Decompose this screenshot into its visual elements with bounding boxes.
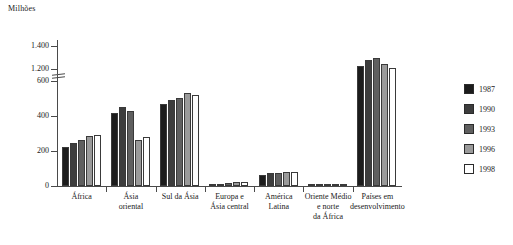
legend-label: 1993 (479, 125, 495, 134)
bar-group (156, 40, 205, 186)
legend-swatch-icon (464, 164, 474, 174)
bar-group (205, 40, 254, 186)
y-axis-unit-label: Milhões (8, 4, 36, 13)
bar[interactable] (78, 140, 85, 186)
y-tick-label: 600 (9, 76, 49, 85)
bar[interactable] (283, 172, 290, 186)
bars (62, 40, 102, 186)
bar[interactable] (357, 66, 364, 186)
y-tick-label: 1.200 (9, 64, 49, 73)
legend-swatch-icon (464, 124, 474, 134)
bar[interactable] (111, 113, 118, 187)
bars (160, 40, 200, 186)
bar[interactable] (86, 136, 93, 186)
bar[interactable] (340, 184, 347, 186)
bar[interactable] (217, 184, 224, 186)
legend-swatch-icon (464, 84, 474, 94)
bar[interactable] (373, 58, 380, 187)
legend-item[interactable]: 1987 (464, 84, 495, 94)
bar-group (353, 40, 402, 186)
bar[interactable] (127, 111, 134, 186)
bar-group (57, 40, 106, 186)
bar-group (106, 40, 155, 186)
bar[interactable] (135, 140, 142, 186)
legend: 19871990199319961998 (464, 84, 495, 184)
bar[interactable] (184, 93, 191, 186)
bar[interactable] (233, 182, 240, 186)
bar[interactable] (192, 95, 199, 186)
bar[interactable] (209, 184, 216, 186)
bar[interactable] (275, 173, 282, 186)
bar[interactable] (241, 182, 248, 186)
y-tick-label: 200 (9, 146, 49, 155)
plot-area: 02004006001.2001.400 ÁfricaÁsia oriental… (57, 40, 402, 186)
legend-label: 1990 (479, 105, 495, 114)
legend-item[interactable]: 1990 (464, 104, 495, 114)
bar[interactable] (160, 104, 167, 186)
bar[interactable] (291, 172, 298, 186)
bar[interactable] (176, 98, 183, 186)
y-tick-mark (51, 186, 57, 187)
y-tick-label: 400 (9, 111, 49, 120)
bars (259, 40, 299, 186)
legend-item[interactable]: 1996 (464, 144, 495, 154)
bar-group (254, 40, 303, 186)
bar[interactable] (62, 147, 69, 186)
legend-item[interactable]: 1993 (464, 124, 495, 134)
bar[interactable] (225, 183, 232, 186)
bar[interactable] (143, 137, 150, 186)
bar[interactable] (70, 143, 77, 186)
bar[interactable] (332, 184, 339, 186)
legend-label: 1987 (479, 85, 495, 94)
bar[interactable] (94, 135, 101, 186)
bar[interactable] (168, 100, 175, 186)
bar[interactable] (381, 64, 388, 186)
y-tick-label: 1.400 (9, 41, 49, 50)
bar[interactable] (389, 68, 396, 186)
bar[interactable] (259, 175, 266, 186)
bar[interactable] (308, 184, 315, 186)
x-axis-category-label: Países em desenvolvimento (341, 192, 414, 212)
bar[interactable] (267, 173, 274, 186)
bars (357, 40, 397, 186)
bars (209, 40, 249, 186)
legend-item[interactable]: 1998 (464, 164, 495, 174)
legend-label: 1996 (479, 145, 495, 154)
bars (111, 40, 151, 186)
bar[interactable] (324, 184, 331, 186)
x-axis-line (57, 186, 402, 187)
legend-label: 1998 (479, 165, 495, 174)
bar-chart: Milhões 02004006001.2001.400 ÁfricaÁsia … (0, 0, 513, 245)
bar[interactable] (119, 107, 126, 186)
bar[interactable] (365, 60, 372, 186)
legend-swatch-icon (464, 104, 474, 114)
bar[interactable] (316, 184, 323, 186)
bar-group (303, 40, 352, 186)
legend-swatch-icon (464, 144, 474, 154)
bars (308, 40, 348, 186)
y-tick-label: 0 (9, 181, 49, 190)
